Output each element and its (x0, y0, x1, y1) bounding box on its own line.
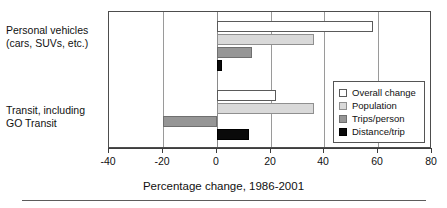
legend-label: Population (352, 100, 397, 111)
x-tick--40 (108, 148, 109, 153)
x-tick--20 (162, 148, 163, 153)
legend-swatch-icon (339, 128, 347, 136)
legend-item-population: Population (339, 99, 420, 112)
x-tick-40 (323, 148, 324, 153)
bar (217, 21, 373, 32)
x-tick-label-60: 60 (357, 155, 397, 167)
legend-swatch-icon (339, 102, 347, 110)
legend-label: Overall change (352, 87, 416, 98)
x-tick-label--40: -40 (88, 155, 128, 167)
gridline-0 (217, 12, 218, 147)
x-axis-label: Percentage change, 1986-2001 (0, 180, 447, 192)
gridline-20 (271, 12, 272, 147)
x-tick-label--20: -20 (142, 155, 182, 167)
x-tick-80 (431, 148, 432, 153)
x-tick-label-80: 80 (411, 155, 447, 167)
bar (217, 103, 314, 114)
chart-figure: Personal vehicles (cars, SUVs, etc.) Tra… (0, 0, 447, 208)
bar (217, 60, 222, 71)
x-tick-20 (270, 148, 271, 153)
x-tick-60 (377, 148, 378, 153)
legend-item-distance-trip: Distance/trip (339, 125, 420, 138)
x-tick-0 (216, 148, 217, 153)
legend-label: Trips/person (352, 113, 404, 124)
gridline-40 (324, 12, 325, 147)
legend-item-overall-change: Overall change (339, 86, 420, 99)
category-label-personal-vehicles: Personal vehicles (cars, SUVs, etc.) (6, 24, 106, 50)
bar (217, 34, 314, 45)
bottom-divider-rule (22, 200, 426, 201)
chart-legend: Overall changePopulationTrips/personDist… (333, 81, 425, 143)
bar (217, 90, 276, 101)
legend-label: Distance/trip (352, 126, 405, 137)
bar (217, 47, 252, 58)
legend-item-trips-person: Trips/person (339, 112, 420, 125)
gridline--20 (163, 12, 164, 147)
x-tick-label-40: 40 (303, 155, 343, 167)
category-label-transit: Transit, including GO Transit (6, 104, 106, 130)
legend-swatch-icon (339, 89, 347, 97)
x-tick-label-20: 20 (250, 155, 290, 167)
x-tick-label-0: 0 (196, 155, 236, 167)
legend-swatch-icon (339, 115, 347, 123)
bar (217, 129, 249, 140)
bar (163, 116, 217, 127)
